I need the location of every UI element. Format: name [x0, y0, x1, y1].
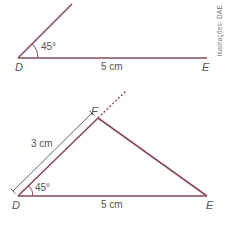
- segment-FE: [98, 118, 207, 196]
- length-label-DE-top: 5 cm: [101, 61, 123, 72]
- construction-diagram: [0, 0, 235, 228]
- vertex-label-F: F: [91, 105, 98, 117]
- vertex-label-E-top: E: [202, 61, 209, 73]
- vertex-label-D-bottom: D: [12, 199, 20, 211]
- angle-label-bottom: 45°: [35, 182, 50, 193]
- angle-arc-bottom: [29, 186, 33, 197]
- length-label-DF: 3 cm: [31, 138, 53, 149]
- angle-label-top: 45°: [41, 41, 56, 52]
- ray-extension-dashed: [98, 91, 126, 118]
- angle-arc-top: [32, 44, 38, 58]
- measure-line-DF: [13, 113, 92, 191]
- segment-DF: [18, 118, 98, 196]
- vertex-label-D-top: D: [15, 61, 23, 73]
- length-label-DE-bottom: 5 cm: [101, 199, 123, 210]
- illustration-credit: Ilustrações: DAE: [216, 5, 223, 57]
- vertex-label-E-bottom: E: [206, 199, 213, 211]
